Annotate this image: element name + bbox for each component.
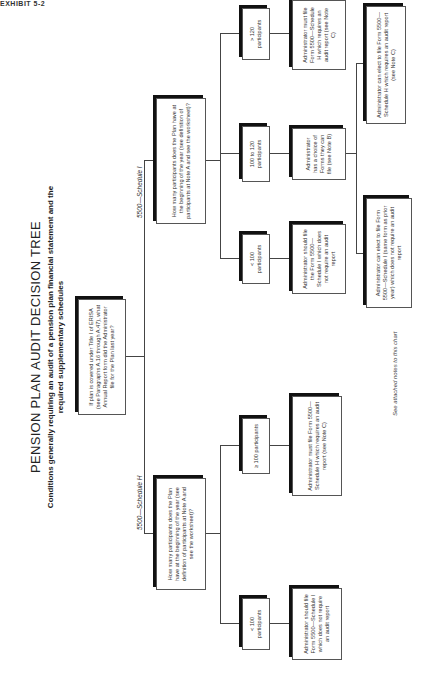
branch-label-schedule-h: 5500—Schedule H <box>136 475 143 530</box>
outcome-text: Administrator can elect to file Form 550… <box>376 11 397 119</box>
decision-tree-canvas: PENSION PLAN AUDIT DECISION TREE Conditi… <box>0 0 429 694</box>
schedule-h-question: How many participants does the Plan have… <box>167 483 195 585</box>
connector <box>356 64 357 254</box>
schedule-i-elect-schedule-i-outcome: Administrator can elect to file Form 550… <box>366 198 412 308</box>
schedule-i-question: How many participants does the Plan have… <box>171 103 192 219</box>
root-question-box: If plan is covered under Title I of ERIS… <box>78 299 126 415</box>
branch-label-schedule-i: 5500—Schedule I <box>136 166 143 218</box>
schedule-h-lt100-box: < 100 participants <box>242 598 270 650</box>
schedule-h-ge100-box: ≥ 100 participants <box>242 418 270 474</box>
connector <box>206 533 220 534</box>
root-question: If plan is covered under Title I of ERIS… <box>88 304 116 410</box>
connector <box>220 153 242 154</box>
connector <box>220 445 242 446</box>
connector <box>220 33 242 34</box>
connector <box>144 533 156 534</box>
chart-title: PENSION PLAN AUDIT DECISION TREE <box>28 0 43 694</box>
schedule-i-gt120-outcome: Administrator must file Form 5500—Schedu… <box>292 0 346 70</box>
connector <box>220 258 242 259</box>
footnote: See attached notes to this chart <box>392 332 398 416</box>
option-label: < 100 participants <box>249 239 263 279</box>
outcome-text: Administrator can elect to file Form 550… <box>375 203 403 303</box>
connector <box>270 258 292 259</box>
option-label: < 100 participants <box>249 603 263 645</box>
schedule-i-question-box: How many participants does the Plan have… <box>156 98 206 224</box>
outcome-text: Administrator must file Form 5500—Schedu… <box>307 401 328 491</box>
connector <box>356 63 366 64</box>
schedule-h-question-box: How many participants does the Plan have… <box>156 478 206 590</box>
schedule-i-100to120-outcome: Administrator has a choice of Forms they… <box>292 128 346 180</box>
connector <box>270 153 292 154</box>
connector <box>220 446 221 624</box>
schedule-i-lt100-outcome: Administrator should file the Form 5500—… <box>292 224 346 294</box>
option-label: ≥ 100 participants <box>253 424 260 468</box>
outcome-text: Administrator should file Form 5500—Sche… <box>303 593 331 655</box>
schedule-i-100to120-box: 100 to 120 participants <box>242 126 270 182</box>
option-label: 100 to 120 participants <box>249 131 263 177</box>
schedule-h-lt100-outcome: Administrator should file Form 5500—Sche… <box>292 588 342 660</box>
schedule-i-gt120-box: > 120 participants <box>242 8 270 60</box>
connector <box>220 34 221 259</box>
connector <box>206 160 220 161</box>
connector <box>346 153 356 154</box>
schedule-h-ge100-outcome: Administrator must file Form 5500—Schedu… <box>292 396 342 496</box>
connector <box>144 160 156 161</box>
outcome-text: Administrator has a choice of Forms they… <box>305 133 333 175</box>
connector <box>270 33 292 34</box>
connector <box>356 253 366 254</box>
connector <box>220 623 242 624</box>
outcome-text: Administrator must file Form 5500—Schedu… <box>302 5 337 65</box>
outcome-text: Administrator should file the Form 5500—… <box>302 229 337 289</box>
option-label: > 120 participants <box>249 13 263 55</box>
chart-subtitle: Conditions generally requiring an audit … <box>46 180 66 514</box>
connector <box>126 356 144 357</box>
connector <box>270 445 292 446</box>
schedule-i-elect-schedule-h-outcome: Administrator can elect to file Form 550… <box>366 6 406 124</box>
connector <box>144 161 145 534</box>
connector <box>270 623 292 624</box>
schedule-i-lt100-box: < 100 participants <box>242 234 270 284</box>
